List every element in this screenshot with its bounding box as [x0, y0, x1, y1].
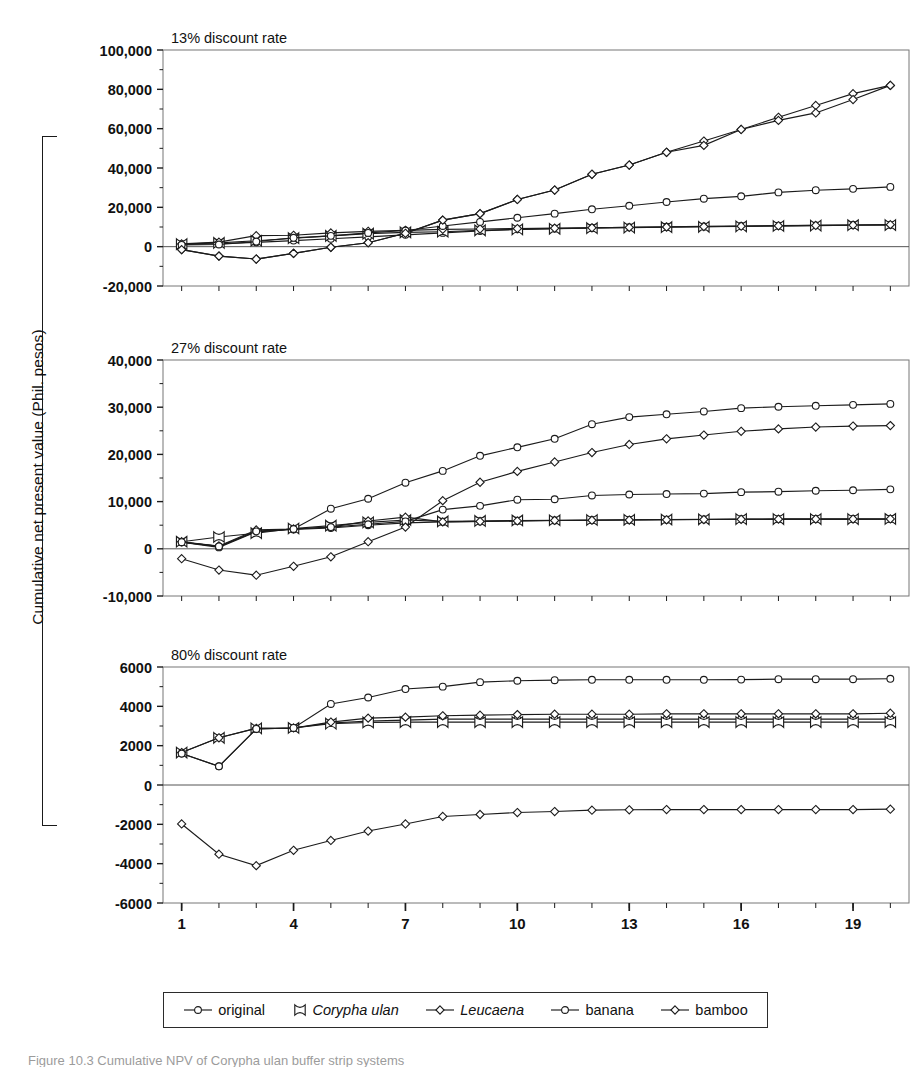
data-point-diamond-marker: [436, 1006, 444, 1014]
data-point-diamond-marker: [551, 186, 559, 194]
data-point-circle-marker: [216, 241, 223, 248]
plot-panel-13: -20,000020,00040,00060,00080,000100,000: [0, 28, 919, 328]
legend-item-corypha-ulan[interactable]: Corypha ulan: [292, 1002, 399, 1018]
figure-caption: Figure 10.3 Cumulative NPV of Corypha ul…: [28, 1053, 908, 1067]
data-point-circle-marker: [195, 1007, 202, 1014]
y-axis-tick-label: -4000: [115, 856, 152, 872]
y-axis-tick-label: 4000: [120, 699, 152, 715]
data-point-diamond-marker: [700, 805, 708, 813]
data-point-diamond-marker: [401, 820, 409, 828]
data-point-circle-marker: [589, 676, 596, 683]
data-point-diamond-marker: [289, 562, 297, 570]
data-point-diamond-marker: [625, 806, 633, 814]
data-point-diamond-marker: [588, 448, 596, 456]
legend-marker-diamond-icon: [660, 1003, 690, 1017]
data-point-circle-marker: [402, 479, 409, 486]
series-leucaena: [178, 709, 895, 757]
plot-frame: [163, 50, 909, 286]
data-point-circle-marker: [738, 489, 745, 496]
data-point-circle-marker: [290, 725, 297, 732]
data-point-circle-marker: [850, 676, 857, 683]
data-point-diamond-marker: [588, 170, 596, 178]
y-axis-tick-label: 40,000: [108, 353, 152, 369]
legend-item-leucaena[interactable]: Leucaena: [425, 1002, 524, 1018]
series-bamboo: [178, 805, 895, 870]
y-axis-tick-label: 20,000: [108, 447, 152, 463]
chart-panel-27-percent: 27% discount rate -10,000010,00020,00030…: [0, 338, 919, 638]
data-point-diamond-marker: [588, 806, 596, 814]
data-point-circle-marker: [290, 234, 297, 241]
chart-legend: originalCorypha ulanLeucaenabananabamboo: [163, 992, 768, 1028]
data-point-circle-marker: [812, 487, 819, 494]
data-point-circle-marker: [514, 444, 521, 451]
x-axis-tick-label: 13: [609, 915, 649, 932]
data-point-diamond-marker: [886, 805, 894, 813]
y-axis-tick-label: -20,000: [103, 279, 152, 295]
series-banana-upper: [178, 400, 893, 549]
data-point-circle-marker: [700, 676, 707, 683]
data-point-circle-marker: [327, 232, 334, 239]
data-point-diamond-marker: [327, 243, 335, 251]
data-point-diamond-marker: [252, 571, 260, 579]
data-point-circle-marker: [589, 206, 596, 213]
data-point-diamond-marker: [774, 425, 782, 433]
data-point-circle-marker: [626, 414, 633, 421]
data-point-circle-marker: [663, 676, 670, 683]
data-point-diamond-marker: [625, 440, 633, 448]
data-point-circle-marker: [290, 526, 297, 533]
data-point-circle-marker: [365, 521, 372, 528]
data-point-circle-marker: [663, 199, 670, 206]
data-point-diamond-marker: [327, 553, 335, 561]
data-point-circle-marker: [551, 677, 558, 684]
series-original: [178, 716, 893, 770]
data-point-diamond-marker: [476, 810, 484, 818]
data-point-circle-marker: [327, 524, 334, 531]
data-point-diamond-marker: [476, 478, 484, 486]
data-point-circle-marker: [216, 543, 223, 550]
data-point-diamond-marker: [513, 808, 521, 816]
y-axis-tick-label: 0: [144, 239, 152, 255]
data-point-circle-marker: [562, 1007, 569, 1014]
data-point-circle-marker: [477, 679, 484, 686]
data-point-circle-marker: [477, 502, 484, 509]
x-axis-tick-label: 16: [721, 915, 761, 932]
data-point-circle-marker: [775, 403, 782, 410]
data-point-diamond-marker: [886, 709, 894, 717]
data-point-circle-marker: [775, 189, 782, 196]
data-point-diamond-marker: [849, 422, 857, 430]
data-point-diamond-marker: [513, 195, 521, 203]
legend-marker-circle-icon: [550, 1003, 580, 1017]
y-axis-tick-label: -2000: [115, 817, 152, 833]
y-axis-tick-label: 100,000: [100, 43, 152, 59]
data-point-diamond-marker: [215, 252, 223, 260]
data-point-diamond-marker: [662, 435, 670, 443]
data-point-diamond-marker: [252, 862, 260, 870]
data-point-circle-marker: [514, 677, 521, 684]
legend-item-original[interactable]: original: [183, 1002, 265, 1018]
y-axis-tick-label: 60,000: [108, 121, 152, 137]
data-point-circle-marker: [700, 195, 707, 202]
y-axis-tick-label: -10,000: [103, 589, 152, 605]
data-point-circle-marker: [514, 214, 521, 221]
legend-item-bamboo[interactable]: bamboo: [660, 1002, 747, 1018]
data-point-circle-marker: [178, 539, 185, 546]
data-point-circle-marker: [365, 694, 372, 701]
x-axis-tick-label: 4: [274, 915, 314, 932]
data-point-circle-marker: [775, 488, 782, 495]
data-point-circle-marker: [738, 676, 745, 683]
data-point-circle-marker: [812, 402, 819, 409]
data-point-circle-marker: [887, 675, 894, 682]
data-point-circle-marker: [626, 491, 633, 498]
data-point-diamond-marker: [812, 805, 820, 813]
data-point-diamond-marker: [513, 467, 521, 475]
plot-frame: [163, 360, 909, 596]
y-axis-tick-label: 0: [144, 778, 152, 794]
legend-item-banana[interactable]: banana: [550, 1002, 633, 1018]
series-leucaena: [178, 513, 895, 550]
figure-container: Cumulative net present value (Phil. peso…: [0, 0, 919, 1067]
data-point-circle-marker: [812, 676, 819, 683]
data-point-circle-marker: [551, 496, 558, 503]
legend-marker-circle-icon: [183, 1003, 213, 1017]
data-point-circle-marker: [253, 528, 260, 535]
data-point-diamond-marker: [289, 249, 297, 257]
